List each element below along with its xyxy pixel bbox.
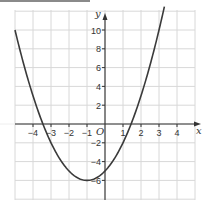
chart: −4−3−2−11234−6−4−2246810 x y O: [0, 0, 206, 200]
x-tick-label: 2: [138, 128, 143, 138]
y-tick-label: −4: [91, 157, 101, 167]
x-tick-label: 4: [174, 128, 179, 138]
x-tick-label: 3: [156, 128, 161, 138]
y-tick-label: 6: [96, 63, 101, 73]
y-tick-label: 2: [96, 101, 101, 111]
y-tick-label: 10: [91, 26, 101, 36]
x-axis-label: x: [196, 125, 202, 136]
parabola-curve: [15, 7, 164, 181]
y-tick-label: 4: [96, 82, 101, 92]
y-axis-label: y: [94, 8, 101, 19]
axes: [15, 13, 201, 200]
y-axis-arrow-icon: [103, 13, 108, 20]
x-tick-label: −4: [28, 128, 38, 138]
x-tick-label: 1: [120, 128, 125, 138]
x-tick-label: −2: [64, 128, 74, 138]
y-tick-label: 8: [96, 44, 101, 54]
x-tick-label: −1: [82, 128, 92, 138]
curve-layer: [15, 7, 164, 181]
origin-label: O: [96, 126, 104, 137]
y-tick-label: −2: [91, 138, 101, 148]
